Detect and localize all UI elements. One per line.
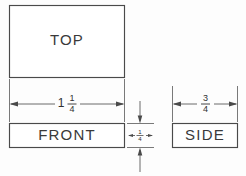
depth-dim-denominator: 4 xyxy=(203,104,208,114)
top-view-label: TOP xyxy=(50,31,84,48)
depth-dim-numerator: 3 xyxy=(203,93,208,103)
depth-dimension-group: 3 4 xyxy=(173,93,238,115)
depth-arrow-right-icon xyxy=(229,102,238,107)
height-dim-denominator: 4 xyxy=(138,136,142,142)
height-arrow-down-icon xyxy=(138,116,143,124)
side-view-group: SIDE xyxy=(173,124,238,148)
width-dim-whole-number: 1 xyxy=(58,96,65,110)
width-arrow-right-icon xyxy=(116,102,125,107)
width-dim-denominator: 4 xyxy=(69,104,74,114)
height-dimension-group: 1 4 xyxy=(127,101,154,172)
drawing-svg: TOP 1 1 4 FRONT xyxy=(0,0,246,176)
width-extension-lines xyxy=(10,79,125,122)
height-leader-arrow-right-icon xyxy=(148,134,153,137)
orthographic-drawing-canvas: TOP 1 1 4 FRONT xyxy=(0,0,246,176)
front-view-label: FRONT xyxy=(38,126,96,143)
height-leader-arrow-left-icon xyxy=(128,134,133,137)
side-view-label: SIDE xyxy=(185,126,225,143)
height-arrow-up-icon xyxy=(138,148,143,156)
width-dim-numerator: 1 xyxy=(69,93,74,103)
front-view-group: FRONT xyxy=(10,124,125,148)
width-arrow-left-icon xyxy=(10,102,19,107)
top-view-group: TOP xyxy=(10,6,125,78)
depth-arrow-left-icon xyxy=(173,102,182,107)
height-dim-numerator: 1 xyxy=(138,129,142,135)
width-dimension-group: 1 1 4 xyxy=(10,93,125,115)
